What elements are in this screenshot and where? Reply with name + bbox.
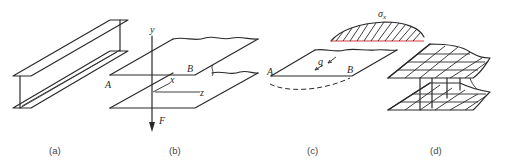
panel-c-shear-flow: A q B — [266, 49, 397, 89]
caption-c: (c) — [307, 145, 318, 156]
label-q: q — [318, 56, 323, 67]
caption-a: (a) — [49, 145, 61, 156]
label-z: z — [199, 87, 204, 98]
label-F: F — [158, 115, 166, 126]
label-A-c: A — [266, 66, 274, 77]
caption-d: (d) — [430, 145, 442, 156]
label-sigma: σx — [378, 8, 387, 21]
label-B-c: B — [347, 64, 353, 75]
panel-d-stress-distribution: σx — [331, 8, 490, 110]
panel-b-flange-plates: y A B x z F — [104, 24, 258, 132]
label-x: x — [169, 74, 175, 85]
caption-b: (b) — [169, 145, 181, 156]
panel-a-i-beam — [13, 20, 128, 108]
label-y: y — [149, 24, 155, 35]
label-B: B — [187, 63, 193, 74]
shear-lag-figure: y A B x z F A q B — [0, 0, 505, 164]
label-A: A — [104, 79, 112, 90]
